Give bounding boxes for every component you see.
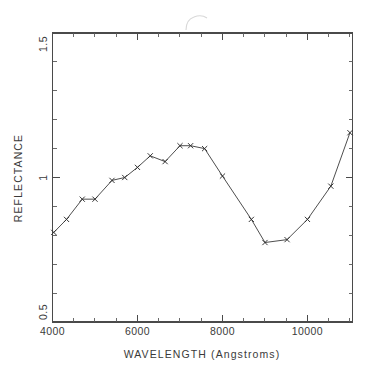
- reflectance-spectrum-figure: 40006000800010000 0.511.5 WAVELENGTH (An…: [0, 0, 370, 382]
- plot-canvas: 40006000800010000 0.511.5 WAVELENGTH (An…: [0, 0, 370, 382]
- y-axis-title: REFLECTANCE: [12, 134, 24, 222]
- x-tick-label: 8000: [210, 325, 235, 337]
- y-tick-label: 0.5: [37, 304, 49, 320]
- data-point-marker: [328, 184, 333, 189]
- data-series-reflectance: [51, 130, 352, 245]
- data-point-marker: [64, 217, 69, 222]
- x-axis-title: WAVELENGTH (Angstroms): [124, 348, 281, 360]
- x-tick-label: 10000: [292, 325, 323, 337]
- scan-artifact-mark: [186, 16, 207, 30]
- data-point-marker: [347, 130, 352, 135]
- y-tick-label: 1.5: [37, 36, 49, 52]
- plot-frame: [53, 33, 353, 322]
- data-point-marker: [135, 165, 140, 170]
- data-point-marker: [148, 153, 153, 158]
- y-axis-tick-labels: 0.511.5: [37, 36, 49, 320]
- x-axis-ticks: [53, 33, 350, 322]
- x-tick-label: 4000: [40, 325, 65, 337]
- data-line-reflectance: [54, 133, 350, 243]
- y-tick-label: 1: [37, 174, 49, 180]
- x-axis-tick-labels: 40006000800010000: [40, 325, 323, 337]
- data-point-marker: [305, 217, 310, 222]
- x-tick-label: 6000: [125, 325, 150, 337]
- data-point-marker: [249, 217, 254, 222]
- y-axis-ticks: [53, 33, 353, 322]
- data-point-marker: [220, 173, 225, 178]
- data-point-marker: [163, 159, 168, 164]
